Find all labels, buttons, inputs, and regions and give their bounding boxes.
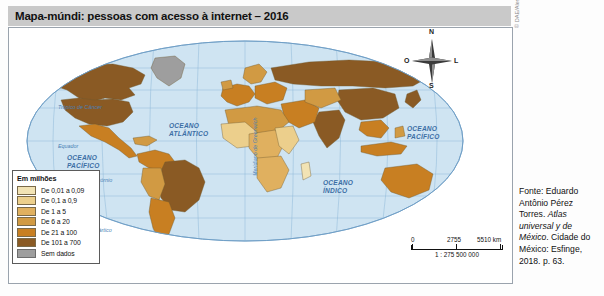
scale-numbers: 0 2755 5510 km — [411, 236, 503, 245]
page-title: Mapa-múndi: pessoas com acesso à interne… — [8, 10, 289, 22]
ocean-label-indico: OCEANO ÍNDICO — [323, 179, 353, 194]
map-legend: Em milhões De 0,01 a 0,09 De 0,1 a 0,9 D… — [12, 170, 100, 264]
compass-north-label: N — [429, 28, 434, 35]
legend-label: De 0,01 a 0,09 — [41, 187, 84, 194]
figure-container: Mapa-múndi: pessoas com acesso à interne… — [0, 0, 604, 296]
legend-item: De 0,1 a 0,9 — [17, 196, 96, 205]
source-line-1: Fonte: Eduardo — [519, 186, 578, 196]
legend-swatch — [17, 249, 36, 258]
legend-item: De 101 a 700 — [17, 238, 96, 247]
legend-label: De 1 a 5 — [41, 208, 66, 215]
legend-label: De 0,1 a 0,9 — [41, 197, 77, 204]
source-line-3: . Cidade — [546, 232, 578, 242]
figure-title-bar: Mapa-múndi: pessoas com acesso à interne… — [8, 6, 511, 26]
legend-label: De 6 a 20 — [41, 218, 70, 225]
compass-rose-icon — [404, 28, 460, 90]
legend-item: Sem dados — [17, 249, 96, 258]
ocean-label-pacifico-leste: OCEANO PACÍFICO — [407, 125, 440, 140]
label-equador: Equador — [58, 143, 78, 149]
scale-ratio-label: 1 : 275 500 000 — [411, 251, 503, 258]
legend-swatch — [17, 207, 36, 216]
compass-south-label: S — [429, 82, 434, 89]
compass-rose: N S O L — [404, 28, 460, 90]
source-line-5: 2018. p. 63. — [519, 256, 564, 266]
legend-swatch — [17, 186, 36, 195]
legend-swatch — [17, 217, 36, 226]
ocean-label-atlantico: OCEANO ATLÂNTICO — [169, 122, 208, 137]
label-meridiano-de-greenwich: Meridiano de Greenwich — [252, 118, 258, 176]
legend-item: De 6 a 20 — [17, 217, 96, 226]
scale-max-label: 5510 km — [477, 236, 501, 243]
legend-label: Sem dados — [41, 250, 74, 257]
legend-swatch — [17, 196, 36, 205]
ocean-label-pacifico-oeste: OCEANO PACÍFICO — [67, 154, 100, 169]
legend-swatch — [17, 228, 36, 237]
legend-label: De 21 a 100 — [41, 229, 77, 236]
map-scale: 0 2755 5510 km 1 : 275 500 000 — [411, 236, 503, 258]
label-tropico-de-cancer: Trópico de Câncer — [58, 104, 102, 110]
scale-min-label: 0 — [411, 236, 415, 243]
legend-item: De 0,01 a 0,09 — [17, 186, 96, 195]
scale-mid-label: 2755 — [447, 236, 461, 243]
source-citation: Fonte: Eduardo Antônio Pérez Torres. Atl… — [519, 186, 601, 267]
legend-item: De 21 a 100 — [17, 228, 96, 237]
legend-title: Em milhões — [17, 174, 96, 183]
country-uk — [221, 80, 233, 90]
legend-item: De 1 a 5 — [17, 207, 96, 216]
scale-bar — [411, 245, 503, 250]
legend-label: De 101 a 700 — [41, 239, 81, 246]
country-philippines — [395, 126, 405, 138]
compass-east-label: L — [454, 57, 458, 64]
image-credit: © DAE/Alessandro Passos da Costa — [514, 0, 520, 28]
compass-west-label: O — [404, 57, 409, 64]
legend-swatch — [17, 238, 36, 247]
